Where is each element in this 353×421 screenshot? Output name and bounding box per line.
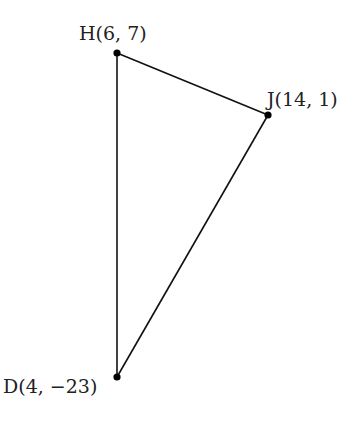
point-h (113, 49, 120, 56)
point-j (264, 111, 271, 118)
point-d (113, 373, 120, 380)
label-d: D(4, −23) (3, 375, 97, 397)
label-j: J(14, 1) (265, 88, 338, 110)
edge-h-j (117, 53, 268, 115)
triangle-diagram: H(6, 7) J(14, 1) D(4, −23) (0, 0, 353, 421)
label-h: H(6, 7) (79, 22, 147, 44)
edge-j-d (117, 115, 268, 377)
